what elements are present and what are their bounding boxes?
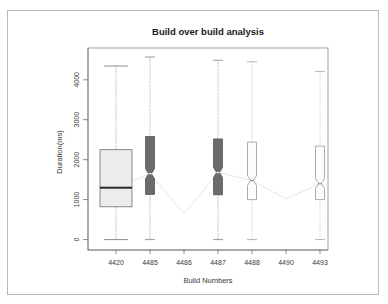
x-tick-label-4490: 4490 (278, 259, 294, 266)
x-axis-label: Build Numbers (183, 276, 232, 285)
x-tick-label-4485: 4485 (142, 259, 158, 266)
x-tick-label-4488: 4488 (244, 259, 260, 266)
x-axis: 4420 4485 4486 4487 4488 4490 4493 Build… (88, 250, 328, 285)
y-tick-label-3000: 3000 (73, 112, 80, 128)
y-tick-label-2000: 2000 (73, 152, 80, 168)
box-4493 (316, 146, 325, 200)
plot-panel (88, 48, 328, 250)
y-axis: 0 1000 2000 3000 4000 Duration(ms) (55, 48, 88, 250)
x-tick-label-4420: 4420 (108, 259, 124, 266)
x-tick-label-4486: 4486 (176, 259, 192, 266)
y-tick-label-0: 0 (73, 238, 80, 242)
x-tick-label-4487: 4487 (210, 259, 226, 266)
y-axis-label: Duration(ms) (55, 130, 64, 174)
box-4487 (214, 139, 223, 195)
box-4485 (146, 137, 155, 195)
box-4420 (100, 150, 132, 207)
y-tick-label-1000: 1000 (73, 192, 80, 208)
x-tick-label-4493: 4493 (312, 259, 328, 266)
chart-title: Build over build analysis (152, 26, 264, 37)
y-tick-label-4000: 4000 (73, 72, 80, 88)
box-4488 (248, 142, 257, 200)
boxplot-chart: Build over build analysis 0 1000 2000 30… (0, 0, 388, 304)
figure-root: Build over build analysis 0 1000 2000 30… (0, 0, 388, 304)
